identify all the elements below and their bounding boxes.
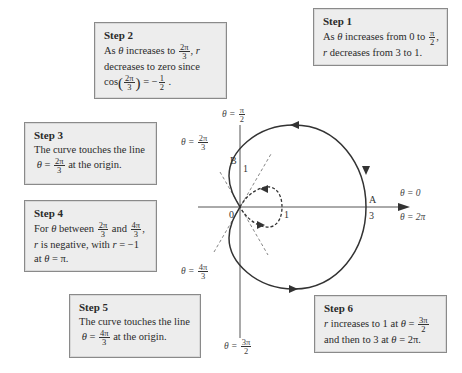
cos: cos: [104, 76, 118, 87]
step-6-box: Step 6 r increases to 1 at θ = 3π2 and t…: [314, 295, 447, 353]
fraction: π2: [429, 29, 435, 46]
denominator: 3: [198, 272, 209, 280]
step-title: Step 2: [104, 28, 218, 42]
text: decreases to zero since: [104, 61, 200, 72]
denominator: 2: [418, 325, 429, 333]
text: at: [34, 253, 44, 264]
text: ,: [436, 31, 439, 42]
x-axis-arrow-icon: [398, 203, 410, 211]
step-4-box: Step 4 For θ between 2π3 and 4π3, r is n…: [24, 200, 157, 272]
step-1-box: Step 1 As θ increases from 0 to π2, r de…: [313, 8, 448, 66]
arrow-top-icon: [290, 121, 299, 129]
fraction: π2: [239, 106, 245, 123]
text: decreases from 3 to 1.: [327, 47, 422, 58]
fraction: 4π3: [99, 329, 110, 346]
origin-label: 0: [229, 209, 234, 220]
denominator: 2: [241, 347, 252, 355]
denominator: 3: [198, 143, 209, 151]
text: = 2π.: [397, 334, 421, 345]
fraction: 3π2: [418, 316, 429, 333]
step-3-box: Step 3 The curve touches the line θ = 2π…: [24, 122, 157, 185]
text: = −1: [117, 239, 139, 250]
denominator: 2: [159, 83, 165, 91]
text: The curve touches the line: [34, 144, 145, 155]
arrow-right-icon: [362, 166, 370, 175]
inner-loop-value: 1: [284, 209, 289, 220]
text: .: [166, 76, 171, 87]
fraction: 2π3: [54, 157, 65, 174]
text: = −: [141, 76, 158, 87]
text: =: [87, 331, 98, 342]
label-theta-pi-over-2: θ = π2: [222, 106, 246, 123]
text: As: [323, 31, 337, 42]
step-2-box: Step 2 As θ increases to 2π3, r decrease…: [94, 22, 227, 99]
text: between: [56, 223, 96, 234]
text: increases from 0 to: [342, 31, 427, 42]
fraction: 4π3: [131, 221, 142, 238]
text: and then to 3 at: [324, 334, 391, 345]
step-title: Step 3: [34, 128, 148, 142]
denominator: 3: [124, 83, 135, 91]
fraction: 2π3: [124, 74, 135, 91]
step-5-box: Step 5 The curve touches the line θ = 4π…: [69, 294, 201, 358]
text: = π.: [49, 253, 68, 264]
text: at the origin.: [66, 159, 122, 170]
point-a-label: A: [369, 194, 376, 205]
text: The curve touches the line: [79, 316, 190, 327]
denominator: 2: [429, 38, 435, 46]
point-b-value: 1: [243, 163, 248, 174]
label-theta-2pi: θ = 2π: [400, 212, 425, 222]
text: =: [406, 318, 417, 329]
point-a-value: 3: [369, 210, 374, 221]
label-theta-3pi-over-2: θ = 3π2: [224, 338, 252, 355]
text: is negative, with: [38, 239, 112, 250]
arrow-inner-top-icon: [260, 185, 268, 193]
fraction: 4π3: [198, 263, 209, 280]
label-lhs: θ =: [224, 341, 240, 351]
denominator: 2: [239, 115, 245, 123]
fraction: 2π3: [98, 221, 109, 238]
text: =: [42, 159, 53, 170]
label-theta-4pi-over-3: θ = 4π3: [181, 263, 209, 280]
point-b-label: B: [230, 155, 237, 166]
denominator: 3: [54, 166, 65, 174]
fraction: 3π2: [241, 338, 252, 355]
denominator: 3: [131, 230, 142, 238]
text: and: [109, 223, 129, 234]
label-lhs: θ =: [181, 137, 197, 147]
label-lhs: θ =: [222, 109, 238, 119]
step-title: Step 1: [323, 14, 439, 28]
fraction: 2π3: [179, 43, 190, 60]
text: As: [104, 45, 118, 56]
text: For: [34, 223, 51, 234]
text: ,: [142, 223, 145, 234]
text: increases to: [123, 45, 178, 56]
denominator: 3: [98, 230, 109, 238]
step-title: Step 5: [79, 300, 192, 314]
arrow-inner-bottom-icon: [257, 221, 265, 229]
label-lhs: θ =: [181, 266, 197, 276]
denominator: 3: [99, 338, 110, 346]
label-theta-2pi-over-3: θ = 2π3: [181, 134, 209, 151]
arrow-bottom-icon: [289, 285, 298, 293]
step-title: Step 6: [324, 301, 438, 315]
r-variable: r: [196, 45, 200, 56]
step-title: Step 4: [34, 206, 148, 220]
denominator: 3: [179, 52, 190, 60]
label-theta-0: θ = 0: [400, 188, 421, 198]
fraction: 12: [159, 74, 165, 91]
text: increases to 1 at: [328, 318, 401, 329]
line-theta-2pi-3: [220, 172, 268, 255]
fraction: 2π3: [198, 134, 209, 151]
text: at the origin.: [111, 331, 167, 342]
